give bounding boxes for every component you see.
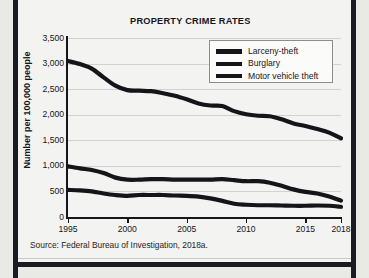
legend-swatch-icon — [216, 74, 242, 78]
legend-label: Burglary — [248, 59, 280, 68]
legend-label: Motor vehicle theft — [248, 72, 318, 81]
figure-root: PROPERTY CRIME RATES Number per 100,000 … — [0, 0, 369, 278]
legend-box: Larceny-theftBurglaryMotor vehicle theft — [209, 40, 333, 83]
legend-swatch-icon — [216, 49, 242, 53]
legend-label: Larceny-theft — [248, 47, 298, 56]
legend-item[interactable]: Motor vehicle theft — [216, 69, 318, 82]
source-note: Source: Federal Bureau of Investigation,… — [30, 240, 208, 250]
legend-item[interactable]: Burglary — [216, 57, 280, 70]
legend-swatch-icon — [216, 62, 242, 66]
legend-item[interactable]: Larceny-theft — [216, 45, 298, 58]
